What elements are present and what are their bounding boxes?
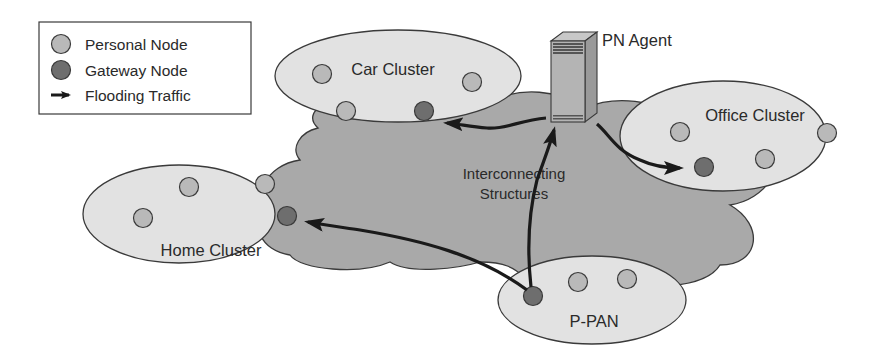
personal-node-icon bbox=[313, 65, 332, 84]
legend-label: Flooding Traffic bbox=[85, 87, 191, 104]
pn-agent-label: PN Agent bbox=[602, 31, 672, 49]
car-cluster: Car Cluster bbox=[275, 30, 521, 122]
gateway-node-icon bbox=[52, 61, 71, 80]
personal-node-icon bbox=[180, 178, 199, 197]
home-cluster-label: Home Cluster bbox=[161, 241, 262, 259]
personal-node-icon bbox=[756, 150, 775, 169]
personal-node-icon bbox=[134, 209, 153, 228]
office-cluster-ellipse bbox=[620, 81, 826, 191]
legend-label: Personal Node bbox=[85, 36, 188, 53]
pn-architecture-diagram: Interconnecting Structures Car Cluster O… bbox=[0, 0, 894, 363]
gateway-node-icon bbox=[415, 102, 434, 121]
personal-node-icon bbox=[671, 123, 690, 142]
personal-node-icon bbox=[463, 73, 482, 92]
cloud-label-line1: Interconnecting bbox=[463, 165, 566, 182]
cloud-label-line2: Structures bbox=[480, 185, 548, 202]
personal-node-icon bbox=[52, 35, 71, 54]
car-cluster-label: Car Cluster bbox=[351, 60, 435, 78]
office-cluster-label: Office Cluster bbox=[705, 106, 805, 124]
server-icon bbox=[551, 32, 597, 122]
personal-node-icon bbox=[337, 102, 356, 121]
gateway-node-icon bbox=[695, 158, 714, 177]
personal-node-icon bbox=[569, 273, 588, 292]
home-cluster: Home Cluster bbox=[83, 165, 297, 263]
legend: Personal Node Gateway Node Flooding Traf… bbox=[39, 22, 251, 114]
p-pan-cluster: P-PAN bbox=[498, 256, 686, 344]
personal-node-icon bbox=[818, 124, 837, 143]
office-cluster: Office Cluster bbox=[620, 81, 837, 191]
personal-node-icon bbox=[618, 270, 637, 289]
gateway-node-icon bbox=[278, 207, 297, 226]
p-pan-label: P-PAN bbox=[569, 312, 618, 330]
personal-node-icon bbox=[256, 175, 275, 194]
legend-label: Gateway Node bbox=[85, 62, 188, 79]
